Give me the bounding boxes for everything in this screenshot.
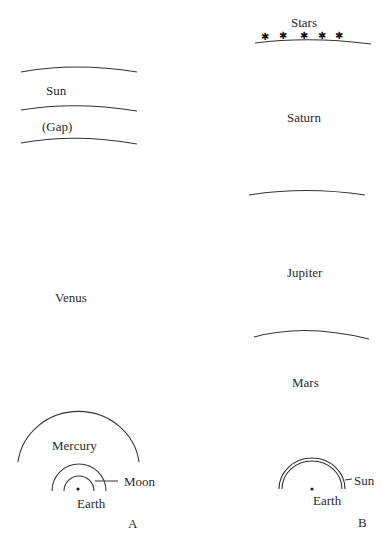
earth-label-a: Earth	[77, 496, 106, 511]
gap-label: (Gap)	[42, 119, 72, 134]
star-icon: ✱	[261, 31, 269, 42]
sun-label-a: Sun	[46, 83, 67, 98]
jupiter-mars-boundary	[254, 330, 369, 339]
star-icon: ✱	[335, 30, 343, 41]
earth-dot-a	[76, 487, 79, 490]
mercury-label: Mercury	[52, 438, 97, 453]
sun-outer-boundary	[21, 67, 137, 72]
caption-b: B	[358, 515, 367, 530]
venus-label: Venus	[55, 290, 87, 305]
moon-sphere-outer	[52, 464, 106, 491]
gap-boundary	[21, 138, 137, 144]
mars-label: Mars	[292, 375, 319, 390]
jupiter-label: Jupiter	[287, 265, 323, 280]
earth-label-b: Earth	[313, 493, 342, 508]
caption-a: A	[128, 516, 138, 531]
star-icon: ✱	[279, 30, 287, 41]
stars-label: Stars	[291, 15, 317, 30]
mercury-sphere	[18, 411, 139, 462]
sun-sphere-outer	[279, 458, 345, 489]
panel-a: Sun (Gap) Venus Mercury Moon Earth A	[18, 67, 156, 531]
cosmology-diagram: Sun (Gap) Venus Mercury Moon Earth A Sta…	[0, 0, 387, 545]
moon-label: Moon	[124, 474, 156, 489]
saturn-label: Saturn	[287, 110, 321, 125]
sun-leader-line	[345, 479, 352, 480]
earth-dot-b	[310, 487, 313, 490]
saturn-jupiter-boundary	[249, 191, 365, 196]
sun-label-b: Sun	[354, 473, 375, 488]
stars-sphere	[255, 40, 371, 44]
sun-inner-boundary	[21, 106, 137, 111]
panel-b: Stars ✱ ✱ ✱ ✱ ✱ Saturn Jupiter Mars Sun …	[249, 15, 375, 530]
